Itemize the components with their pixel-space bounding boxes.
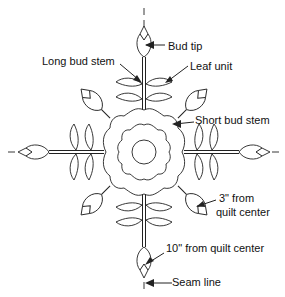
short-bud-sw bbox=[75, 180, 115, 220]
label-3in-line1: 3" from bbox=[219, 192, 254, 204]
short-bud-se bbox=[172, 180, 212, 220]
label-leaf-unit: Leaf unit bbox=[190, 60, 232, 72]
quilt-flower-diagram: Bud tip Long bud stem Leaf unit Short bu… bbox=[0, 0, 285, 297]
label-bud-tip: Bud tip bbox=[168, 40, 202, 52]
label-short-bud-stem: Short bud stem bbox=[195, 114, 270, 126]
label-10in: 10" from quilt center bbox=[166, 242, 264, 254]
label-seam-line: Seam line bbox=[172, 276, 221, 288]
long-bud-arm-right bbox=[184, 124, 270, 180]
long-bud-arm-bottom bbox=[116, 192, 172, 278]
long-bud-arm-left bbox=[18, 124, 104, 180]
short-bud-nw bbox=[75, 83, 115, 123]
long-bud-arm-top bbox=[116, 26, 172, 112]
label-3in-line2: quilt center bbox=[216, 206, 270, 218]
flower-center bbox=[132, 140, 156, 164]
label-long-bud-stem: Long bud stem bbox=[42, 55, 115, 67]
